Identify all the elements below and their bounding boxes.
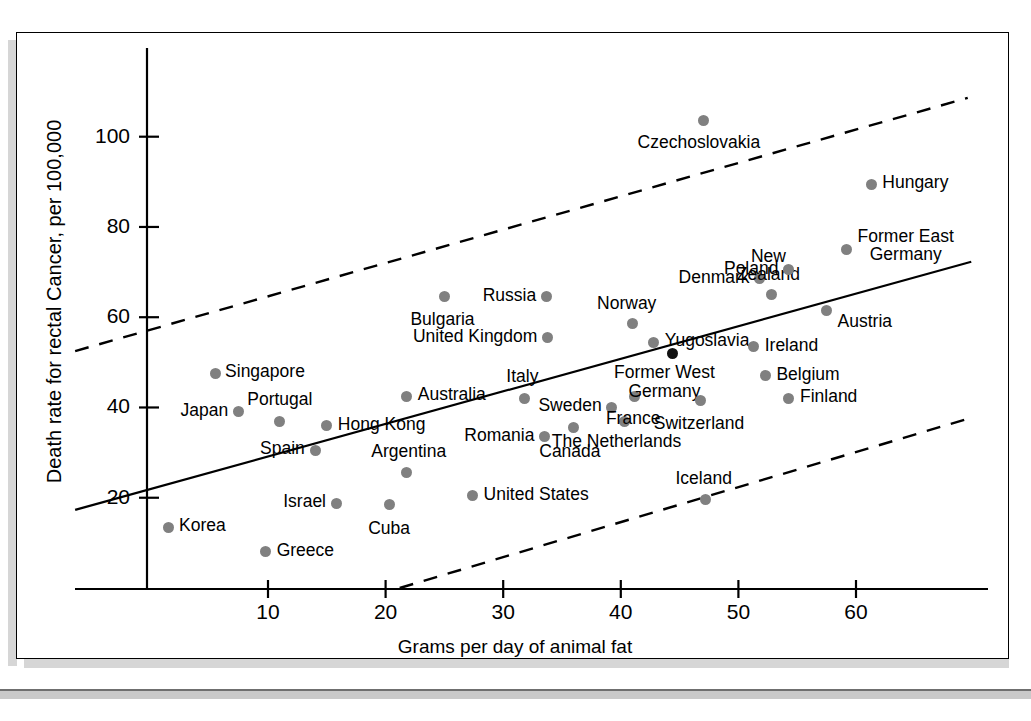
y-tick-label-80: 80 <box>60 214 130 238</box>
x-tick-label-30: 30 <box>481 600 525 624</box>
y-tick-label-100: 100 <box>60 124 130 148</box>
y-tick-label-40: 40 <box>60 394 130 418</box>
x-tick-label-10: 10 <box>246 600 290 624</box>
tick-labels-layer: 10203040506020406080100 <box>0 0 1031 721</box>
y-axis-label: Death rate for rectal Cancer, per 100,00… <box>43 72 66 532</box>
x-tick-label-50: 50 <box>716 600 760 624</box>
x-tick-label-60: 60 <box>834 600 878 624</box>
y-tick-label-20: 20 <box>60 485 130 509</box>
page-rule-bar <box>0 689 1031 699</box>
y-tick-label-60: 60 <box>60 304 130 328</box>
figure-page: KoreaSingaporeJapanGreecePortugalSpainHo… <box>0 0 1031 721</box>
x-axis-label: Grams per day of animal fat <box>300 636 730 658</box>
x-tick-label-20: 20 <box>364 600 408 624</box>
x-tick-label-40: 40 <box>599 600 643 624</box>
